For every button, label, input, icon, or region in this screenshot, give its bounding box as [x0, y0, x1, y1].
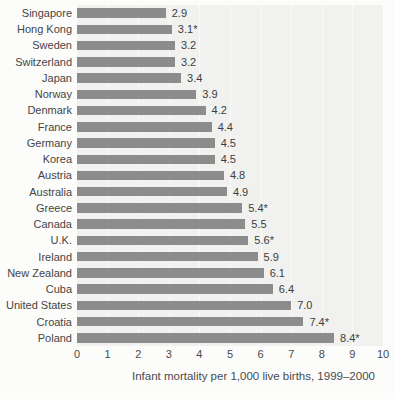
bar-u-k	[77, 236, 248, 246]
bar-denmark	[77, 106, 206, 116]
gridline	[383, 5, 384, 346]
bar-japan	[77, 73, 181, 83]
category-label: France	[0, 119, 72, 135]
value-label: 5.4*	[248, 200, 268, 216]
x-tick-label: 9	[340, 348, 364, 360]
infant-mortality-bar-chart: SingaporeHong KongSwedenSwitzerlandJapan…	[0, 0, 395, 399]
x-tick-label: 6	[249, 348, 273, 360]
x-tick-label: 1	[96, 348, 120, 360]
bar-greece	[77, 203, 242, 213]
value-label: 6.4	[279, 281, 294, 297]
category-label: New Zealand	[0, 265, 72, 281]
x-tick-label: 2	[126, 348, 150, 360]
bar-sweden	[77, 41, 175, 51]
category-label: Australia	[0, 184, 72, 200]
category-label: Denmark	[0, 102, 72, 118]
bar-korea	[77, 155, 215, 165]
bar-austria	[77, 171, 224, 181]
bar-ireland	[77, 252, 258, 262]
gridline	[352, 5, 353, 346]
value-label: 8.4*	[340, 330, 360, 346]
x-tick-label: 7	[279, 348, 303, 360]
value-label: 4.5	[221, 135, 236, 151]
bar-new-zealand	[77, 268, 264, 278]
bar-poland	[77, 333, 334, 343]
bar-singapore	[77, 8, 166, 18]
category-label: Norway	[0, 86, 72, 102]
x-tick-label: 4	[187, 348, 211, 360]
category-label: Japan	[0, 70, 72, 86]
value-label: 7.0	[297, 297, 312, 313]
value-label: 3.1*	[178, 21, 198, 37]
category-label: U.K.	[0, 232, 72, 248]
value-label: 6.1	[270, 265, 285, 281]
x-tick-label: 10	[371, 348, 395, 360]
category-label: Croatia	[0, 314, 72, 330]
bar-switzerland	[77, 57, 175, 67]
value-label: 4.8	[230, 167, 245, 183]
x-axis-label: Infant mortality per 1,000 live births, …	[132, 370, 375, 382]
x-tick-label: 3	[157, 348, 181, 360]
bar-norway	[77, 90, 196, 100]
value-label: 2.9	[172, 5, 187, 21]
gridline	[322, 5, 323, 346]
bar-united-states	[77, 301, 291, 311]
category-label: Greece	[0, 200, 72, 216]
value-label: 4.2	[212, 102, 227, 118]
value-label: 4.9	[233, 184, 248, 200]
bar-canada	[77, 219, 245, 229]
category-label: Cuba	[0, 281, 72, 297]
bar-cuba	[77, 284, 273, 294]
bar-hong-kong	[77, 25, 172, 35]
category-label: Korea	[0, 151, 72, 167]
category-label: Hong Kong	[0, 21, 72, 37]
value-label: 4.4	[218, 119, 233, 135]
x-tick-label: 8	[310, 348, 334, 360]
value-label: 5.5	[251, 216, 266, 232]
category-label: Singapore	[0, 5, 72, 21]
value-label: 3.2	[181, 54, 196, 70]
category-label: United States	[0, 297, 72, 313]
bar-croatia	[77, 317, 303, 327]
gridline	[261, 5, 262, 346]
category-label: Poland	[0, 330, 72, 346]
bar-france	[77, 122, 212, 132]
x-tick-label: 0	[65, 348, 89, 360]
value-label: 3.4	[187, 70, 202, 86]
value-label: 3.9	[202, 86, 217, 102]
bar-germany	[77, 138, 215, 148]
category-label: Sweden	[0, 37, 72, 53]
category-label: Switzerland	[0, 54, 72, 70]
value-label: 3.2	[181, 37, 196, 53]
value-label: 5.6*	[254, 232, 274, 248]
value-label: 5.9	[264, 249, 279, 265]
category-label: Austria	[0, 167, 72, 183]
value-label: 4.5	[221, 151, 236, 167]
bar-australia	[77, 187, 227, 197]
category-label: Germany	[0, 135, 72, 151]
value-label: 7.4*	[309, 314, 329, 330]
x-tick-label: 5	[218, 348, 242, 360]
category-label: Canada	[0, 216, 72, 232]
category-label: Ireland	[0, 249, 72, 265]
